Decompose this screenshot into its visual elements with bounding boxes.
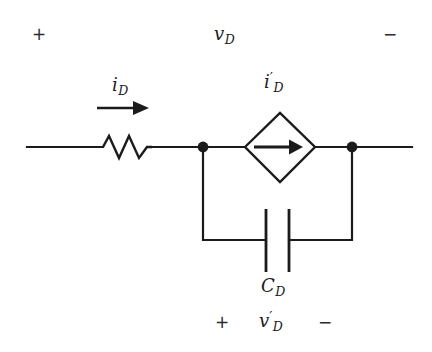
cap-voltage-prime: ′ [269, 309, 272, 325]
cap-voltage-label: v′D [259, 312, 282, 330]
cap-voltage-symbol: v [259, 310, 269, 331]
resistor-zigzag [103, 136, 152, 158]
circuit-diagram-figure: + vD − iD i′D CD + v′D − [0, 0, 432, 352]
capacitor-subscript: D [275, 284, 285, 299]
branch-current-symbol: i [112, 74, 118, 95]
cap-voltage-subscript: D [273, 319, 283, 334]
current-direction-arrow-icon [97, 101, 149, 115]
circuit-schematic-canvas [0, 0, 432, 352]
terminal-plus-top-label: + [32, 26, 46, 43]
source-current-symbol: i [264, 71, 270, 92]
terminal-minus-bottom-label: − [318, 314, 332, 331]
wire-capacitor-right-branch [289, 147, 352, 240]
capacitor-symbol: C [261, 275, 275, 296]
voltage-across-subscript: D [225, 32, 235, 47]
wire-capacitor-left-branch [203, 147, 266, 240]
terminal-plus-bottom-label: + [215, 314, 229, 331]
terminal-minus-top-label: − [383, 26, 397, 43]
capacitor-label: CD [261, 277, 285, 295]
voltage-across-label: vD [214, 25, 234, 43]
dependent-source-arrow-icon [254, 140, 303, 155]
source-current-label: i′D [264, 73, 283, 91]
branch-current-label: iD [112, 76, 128, 94]
branch-current-subscript: D [118, 83, 128, 98]
voltage-across-symbol: v [214, 23, 224, 44]
source-current-subscript: D [273, 80, 283, 95]
